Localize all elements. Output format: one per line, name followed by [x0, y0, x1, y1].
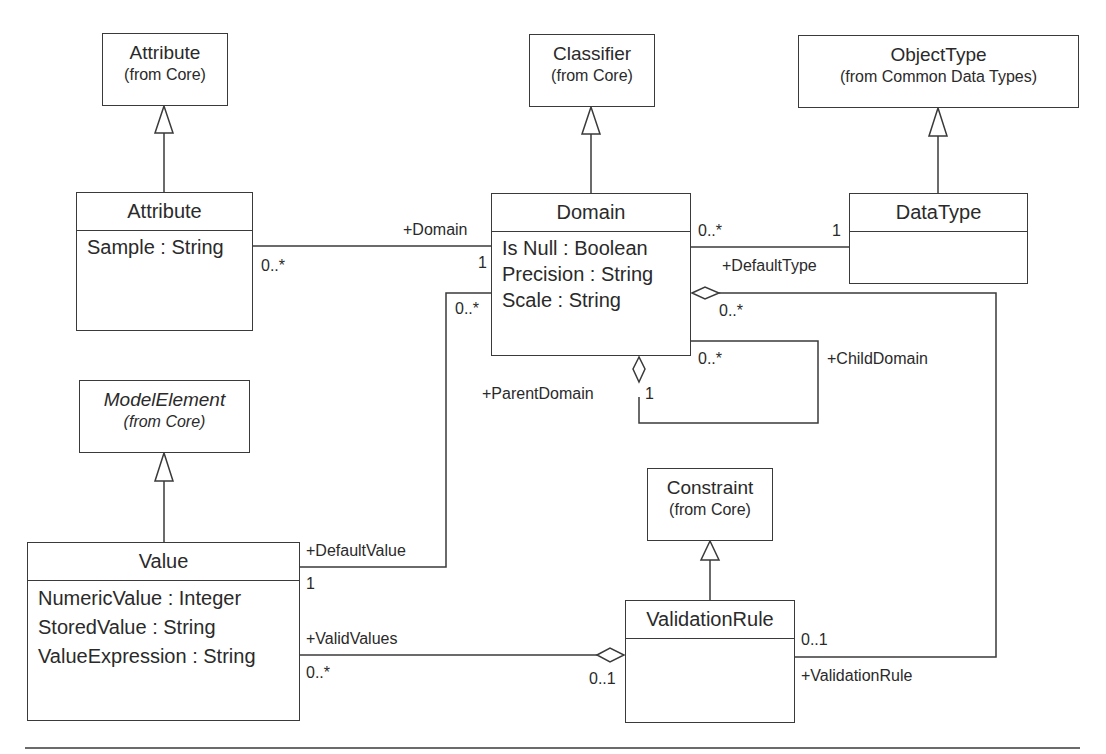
role-label-parentdomain: +ParentDomain [482, 385, 594, 403]
package-attribute-core[interactable]: Attribute (from Core) [102, 33, 228, 106]
multiplicity-label: 0..1 [801, 631, 828, 649]
package-name: ObjectType [799, 36, 1078, 66]
generalization-arrow-icon [701, 541, 719, 560]
multiplicity-label: 1 [478, 254, 487, 272]
package-source: (from Core) [103, 64, 227, 86]
generalization-arrow-icon [155, 453, 173, 481]
role-label-defaulttype: +DefaultType [722, 257, 817, 275]
attribute-row: Precision : String [502, 261, 690, 287]
generalization-arrow-icon [582, 107, 600, 134]
generalization-arrow-icon [155, 106, 173, 133]
package-name: Constraint [648, 469, 772, 499]
attribute-row: Is Null : Boolean [502, 235, 690, 261]
package-name: ModelElement [80, 381, 249, 411]
package-name: Attribute [103, 34, 227, 64]
package-objecttype[interactable]: ObjectType (from Common Data Types) [798, 35, 1079, 108]
uml-class-diagram: Attribute (from Core) Classifier (from C… [0, 0, 1106, 754]
aggregation-diamond-icon [597, 648, 624, 662]
attribute-row: Sample : String [87, 234, 252, 260]
class-validationrule[interactable]: ValidationRule [625, 600, 795, 723]
class-name: Domain [492, 194, 690, 232]
class-value[interactable]: Value NumericValue : Integer StoredValue… [27, 542, 300, 721]
package-source: (from Core) [648, 499, 772, 521]
package-name: Classifier [530, 35, 654, 65]
class-attributes [626, 639, 794, 642]
multiplicity-label: 0..* [698, 350, 722, 368]
class-datatype[interactable]: DataType [849, 193, 1028, 284]
role-label-validvalues: +ValidValues [306, 630, 397, 648]
multiplicity-label: 0..* [261, 257, 285, 275]
class-name: ValidationRule [626, 601, 794, 639]
multiplicity-label: 1 [832, 222, 841, 240]
class-attribute[interactable]: Attribute Sample : String [76, 192, 253, 331]
class-attributes [850, 232, 1027, 235]
role-label-validationrule: +ValidationRule [801, 667, 912, 685]
multiplicity-label: 0..* [719, 302, 743, 320]
multiplicity-label: 0..1 [589, 670, 616, 688]
multiplicity-label: 0..* [455, 300, 479, 318]
multiplicity-label: 0..* [306, 664, 330, 682]
package-source: (from Common Data Types) [799, 66, 1078, 88]
association-domain-value [299, 293, 491, 567]
class-name: DataType [850, 194, 1027, 232]
aggregation-diamond-icon [633, 357, 645, 382]
class-name: Attribute [77, 193, 252, 231]
aggregation-diamond-icon [692, 287, 719, 299]
attribute-row: StoredValue : String [38, 613, 299, 642]
package-source: (from Core) [530, 65, 654, 87]
attribute-row: NumericValue : Integer [38, 584, 299, 613]
package-source: (from Core) [80, 411, 249, 433]
attribute-row: Scale : String [502, 287, 690, 313]
package-modelelement-core[interactable]: ModelElement (from Core) [79, 380, 250, 453]
generalization-arrow-icon [929, 108, 947, 136]
role-label-defaultvalue: +DefaultValue [306, 542, 406, 560]
class-attributes: Sample : String [77, 231, 252, 260]
multiplicity-label: 1 [306, 575, 315, 593]
package-classifier-core[interactable]: Classifier (from Core) [529, 34, 655, 107]
class-attributes: Is Null : Boolean Precision : String Sca… [492, 232, 690, 313]
multiplicity-label: 1 [645, 385, 654, 403]
role-label-childdomain: +ChildDomain [827, 350, 928, 368]
class-name: Value [28, 543, 299, 581]
multiplicity-label: 0..* [698, 222, 722, 240]
class-domain[interactable]: Domain Is Null : Boolean Precision : Str… [491, 193, 691, 356]
role-label-domain: +Domain [403, 221, 467, 239]
class-attributes: NumericValue : Integer StoredValue : Str… [28, 581, 299, 671]
attribute-row: ValueExpression : String [38, 642, 299, 671]
package-constraint-core[interactable]: Constraint (from Core) [647, 468, 773, 541]
